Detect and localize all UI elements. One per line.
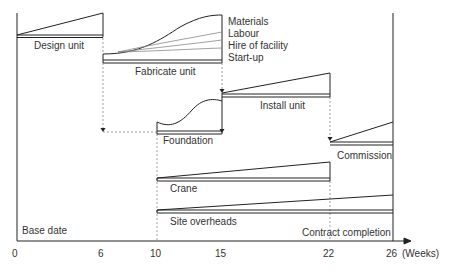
site-overheads-bar <box>157 195 393 213</box>
commission-label: Commission <box>337 150 392 162</box>
tick-26: 26 <box>386 248 397 260</box>
arrow-head-icon <box>101 128 106 132</box>
crane-label: Crane <box>170 183 197 195</box>
install-unit-bar <box>222 73 330 97</box>
commission-bar <box>330 122 393 145</box>
tick-6: 6 <box>98 248 104 260</box>
tick-0: 0 <box>12 248 18 260</box>
tick-15: 15 <box>215 248 226 260</box>
foundation-bar <box>157 93 222 134</box>
hire-of-facility-label: Hire of facility <box>228 40 288 52</box>
base-date-label: Base date <box>22 225 67 237</box>
crane-bar <box>157 162 330 181</box>
labour-label: Labour <box>228 28 259 40</box>
arrow-head-icon <box>328 137 333 141</box>
install-unit-label: Install unit <box>260 100 305 112</box>
x-axis-unit-label: (Weeks) <box>402 248 439 260</box>
foundation-label: Foundation <box>163 135 213 147</box>
start-up-label: Start-up <box>228 52 264 64</box>
fabricate-unit-bar <box>103 15 222 63</box>
site-overheads-label: Site overheads <box>170 216 237 228</box>
design-unit-label: Design unit <box>34 40 84 52</box>
tick-10: 10 <box>150 248 161 260</box>
contract-completion-label: Contract completion <box>302 227 391 239</box>
fabricate-unit-label: Fabricate unit <box>135 66 196 78</box>
tick-22: 22 <box>323 248 334 260</box>
materials-label: Materials <box>228 16 269 28</box>
x-axis-arrow-icon <box>404 238 411 244</box>
design-unit-bar <box>17 13 103 38</box>
